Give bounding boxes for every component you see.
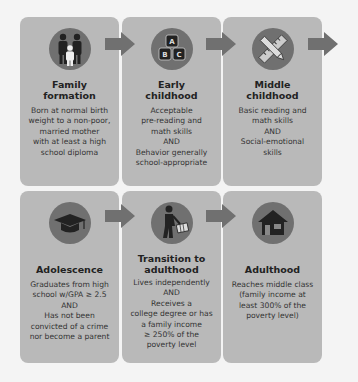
svg-text:C: C (176, 51, 181, 59)
abc-blocks-icon: A B C (151, 28, 193, 70)
person-with-briefcase-icon (151, 202, 193, 244)
stage-title: Earlychildhood (124, 79, 219, 101)
stage-description: Graduates from highschool w/GPA ≥ 2.5AND… (22, 280, 117, 342)
house-icon (252, 202, 294, 244)
graduation-cap-icon (49, 202, 91, 244)
arrow-right-icon (105, 204, 135, 228)
stage-description: Reaches middle class(family income atlea… (225, 280, 320, 322)
arrow-right-icon (105, 32, 135, 56)
stage-description: Basic reading andmath skillsANDSocial-em… (225, 106, 320, 158)
arrow-right-icon (308, 32, 338, 56)
pencil-ruler-icon (252, 28, 294, 70)
stage-title: Adulthood (225, 264, 320, 275)
arrow-right-icon (206, 204, 236, 228)
family-icon (49, 28, 91, 70)
stage-card-adulthood: Adulthood Reaches middle class(family in… (223, 191, 322, 363)
stage-description: Acceptablepre-reading andmath skillsANDB… (124, 106, 219, 168)
stage-title: Adolescence (22, 264, 117, 275)
stage-title: Transition toadulthood (124, 253, 219, 275)
svg-text:A: A (169, 38, 175, 46)
svg-text:B: B (162, 51, 167, 59)
stage-description: Born at normal birthweight to a non-poor… (22, 106, 117, 158)
arrow-right-icon (206, 32, 236, 56)
stage-title: Familyformation (22, 79, 117, 101)
stage-title: Middlechildhood (225, 79, 320, 101)
stage-description: Lives independentlyANDReceives acollege … (124, 278, 219, 351)
